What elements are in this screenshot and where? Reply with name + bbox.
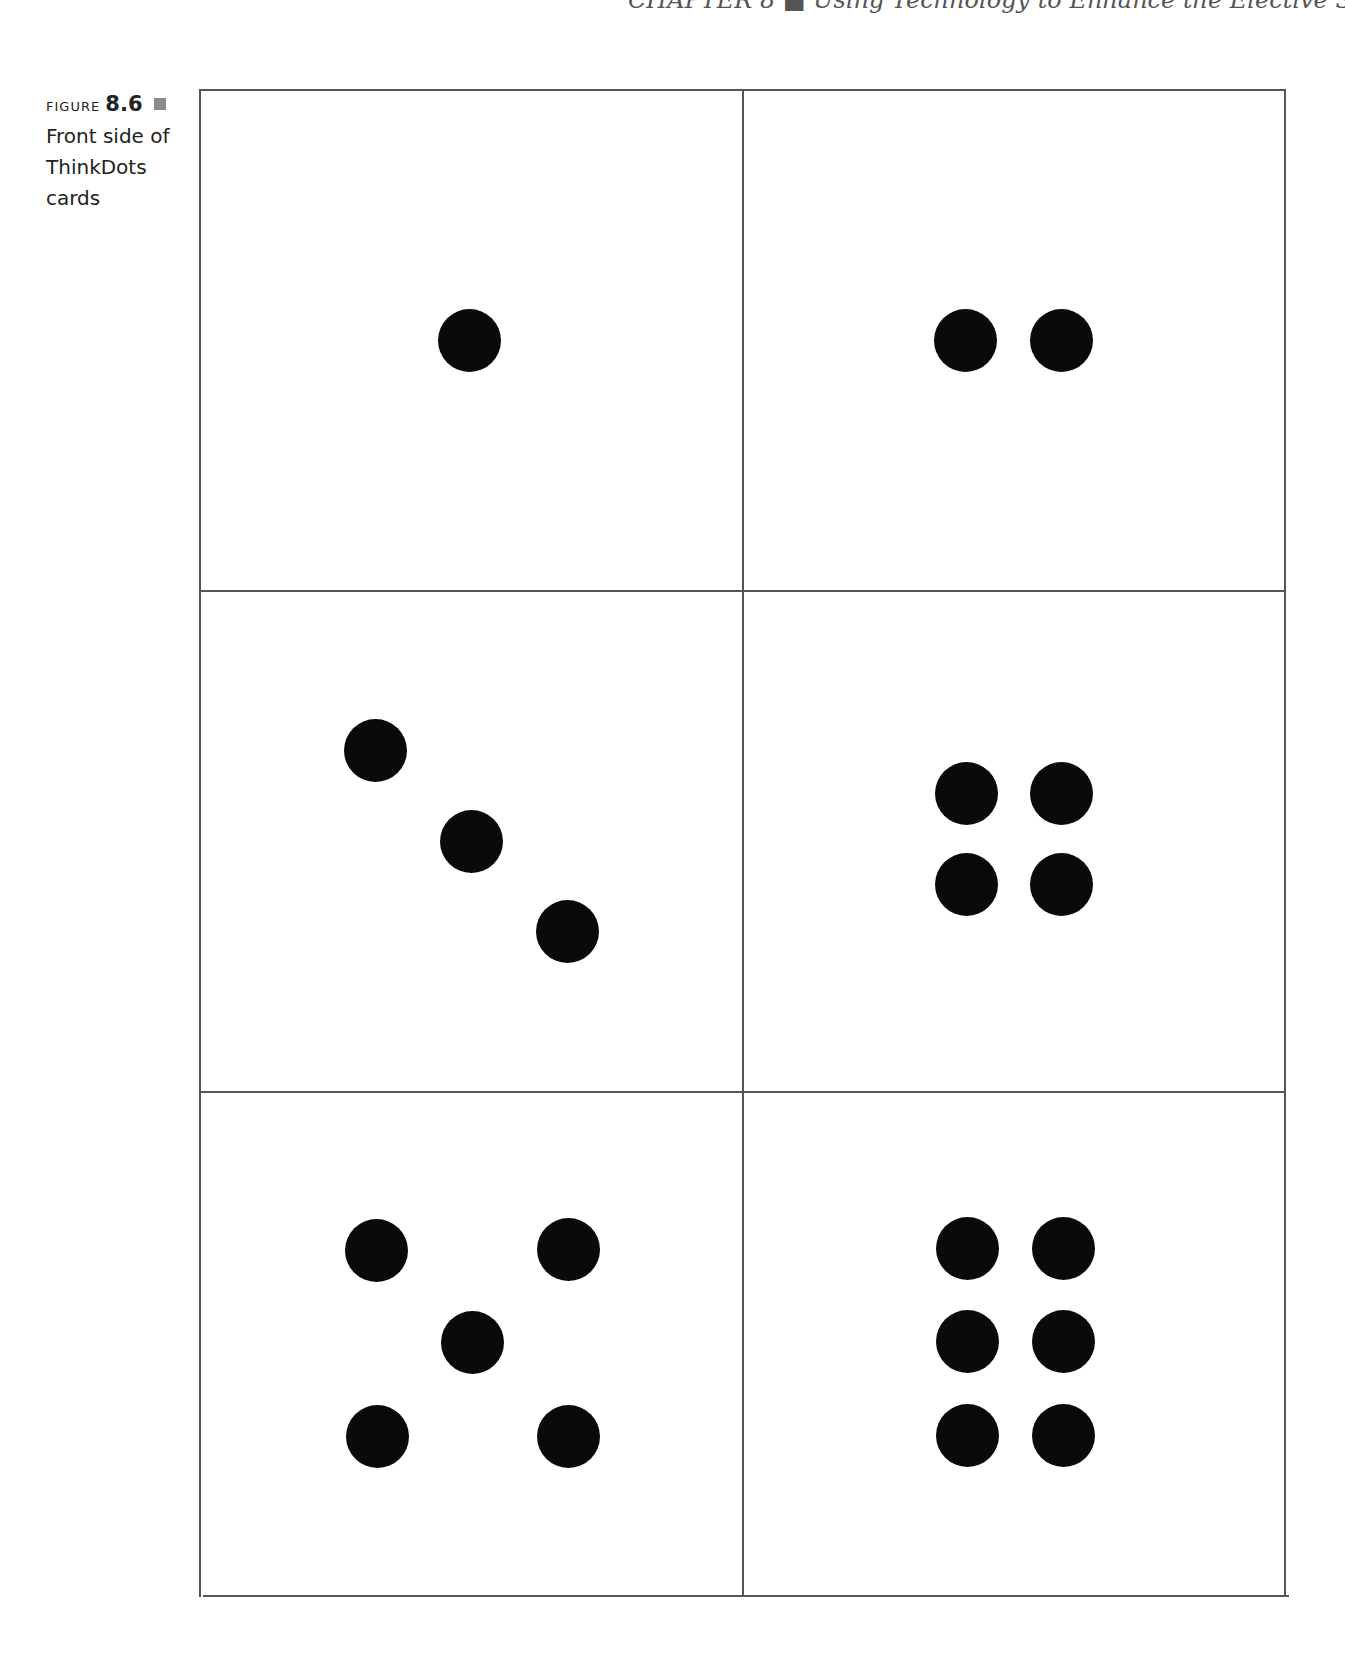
dot [935, 853, 998, 916]
caption-line: ThinkDots [46, 152, 196, 183]
dot [537, 1405, 600, 1468]
dot [438, 309, 501, 372]
dot [440, 810, 503, 873]
grid-divider-vertical [742, 89, 744, 1597]
dot [1032, 1217, 1095, 1280]
dot [936, 1404, 999, 1467]
grid-border-bottom [203, 1595, 1289, 1597]
grid-border-left [199, 89, 201, 1597]
figure-label: FIGURE 8.6 [46, 92, 196, 119]
caption-line: Front side of [46, 121, 196, 152]
square-marker-icon [154, 98, 166, 110]
dot [441, 1311, 504, 1374]
dot [1030, 309, 1093, 372]
dot [1032, 1310, 1095, 1373]
figure-caption-text: Front side of ThinkDots cards [46, 121, 196, 214]
dot [936, 1310, 999, 1373]
figure-label-text: FIGURE [46, 99, 100, 114]
dot [346, 1405, 409, 1468]
figure-caption: FIGURE 8.6 Front side of ThinkDots cards [46, 92, 196, 214]
dot [537, 1218, 600, 1281]
dot [344, 719, 407, 782]
grid-border-right [1284, 89, 1286, 1597]
running-head: CHAPTER 8 ■ Using Technology to Enhance … [628, 0, 1328, 14]
dot [345, 1219, 408, 1282]
dot [936, 1217, 999, 1280]
figure-number: 8.6 [105, 92, 142, 116]
dot [1030, 762, 1093, 825]
dot [935, 762, 998, 825]
dot [536, 900, 599, 963]
dot [1030, 853, 1093, 916]
dot [1032, 1404, 1095, 1467]
dot [934, 309, 997, 372]
caption-line: cards [46, 183, 196, 214]
grid-divider-horizontal-1 [199, 590, 1286, 592]
thinkdots-card-grid [199, 89, 1287, 1596]
grid-divider-horizontal-2 [199, 1091, 1286, 1093]
